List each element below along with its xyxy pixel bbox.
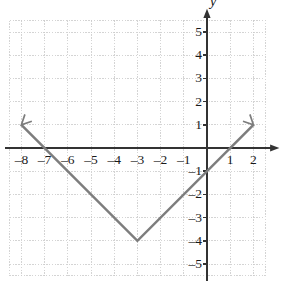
y-tick-label: –3 xyxy=(189,211,203,225)
y-axis-label: y xyxy=(210,0,216,9)
y-tick-label: 4 xyxy=(195,48,202,62)
x-tick-label: –4 xyxy=(107,153,121,167)
x-tick-label: –8 xyxy=(15,153,29,167)
x-tick-label: –6 xyxy=(61,153,75,167)
x-tick-label: 2 xyxy=(250,153,257,167)
y-tick-label: –1 xyxy=(189,164,203,178)
y-tick-label: 5 xyxy=(195,25,202,39)
x-tick-label: 1 xyxy=(227,153,234,167)
graph-figure: –8–7–6–5–4–3–2–112 54321–1–2–3–4–5 x y xyxy=(0,0,281,281)
y-tick-label: 3 xyxy=(195,72,202,86)
x-tick-label: –2 xyxy=(154,153,168,167)
x-tick-label: –7 xyxy=(38,153,52,167)
x-tick-label: –5 xyxy=(84,153,98,167)
y-tick-label: –2 xyxy=(189,188,203,202)
x-tick-label: –3 xyxy=(131,153,145,167)
y-tick-label: 1 xyxy=(195,118,202,132)
coordinate-plane xyxy=(0,0,281,281)
y-tick-label: –4 xyxy=(189,234,203,248)
y-tick-label: 2 xyxy=(195,95,202,109)
y-tick-label: –5 xyxy=(189,257,203,271)
